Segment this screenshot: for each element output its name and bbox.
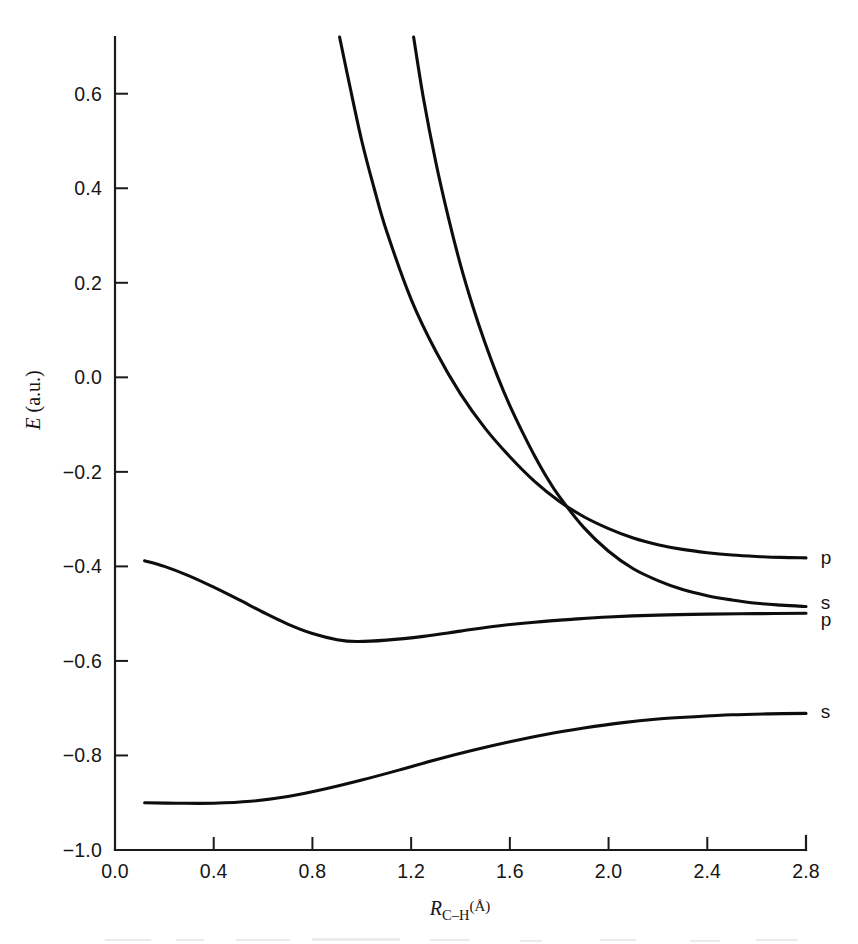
axes-group: [115, 37, 806, 850]
y-tick-label: −1.0: [63, 839, 102, 861]
scan-artifacts: [105, 938, 798, 942]
x-tick-label: 2.8: [792, 860, 820, 882]
y-axis-title: E (a.u.): [22, 370, 45, 430]
y-tick-label: −0.6: [63, 650, 102, 672]
x-tick-label: 0.8: [299, 860, 327, 882]
svg-text:E (a.u.): E (a.u.): [22, 370, 45, 430]
x-tick-group: [214, 837, 806, 850]
x-tick-label: 0.0: [101, 860, 129, 882]
curve-end-label: p: [821, 547, 832, 568]
x-tick-label: 1.6: [496, 860, 524, 882]
curve-repulsive-p: [340, 37, 806, 558]
curve-end-label: p: [821, 609, 832, 630]
curve-bound-p: [145, 561, 806, 642]
figure-container: 0.60.40.20.0−0.2−0.4−0.6−0.8−1.0 0.00.40…: [0, 0, 858, 944]
y-tick-label: 0.2: [74, 272, 102, 294]
x-tick-label-group: 0.00.40.81.21.62.02.42.8: [101, 860, 820, 882]
y-tick-label: −0.4: [63, 555, 102, 577]
y-tick-label: −0.8: [63, 744, 102, 766]
x-tick-label: 2.0: [595, 860, 623, 882]
curve-bound-s: [145, 713, 806, 803]
y-tick-label: −0.2: [63, 461, 102, 483]
x-tick-label: 0.4: [200, 860, 228, 882]
x-tick-label: 2.4: [693, 860, 721, 882]
curve-group: [145, 37, 806, 803]
y-tick-label-group: 0.60.40.20.0−0.2−0.4−0.6−0.8−1.0: [63, 83, 102, 861]
curve-label-group: psps: [821, 547, 832, 722]
x-axis-title: RC–H(Å): [429, 897, 490, 923]
curve-repulsive-s: [414, 37, 806, 607]
y-tick-label: 0.0: [74, 366, 102, 388]
svg-text:RC–H(Å): RC–H(Å): [429, 897, 490, 923]
y-tick-label: 0.6: [74, 83, 102, 105]
y-tick-group: [115, 94, 128, 850]
curve-end-label: s: [821, 701, 831, 722]
energy-curve-plot: 0.60.40.20.0−0.2−0.4−0.6−0.8−1.0 0.00.40…: [0, 0, 858, 944]
x-tick-label: 1.2: [397, 860, 425, 882]
y-tick-label: 0.4: [74, 177, 102, 199]
